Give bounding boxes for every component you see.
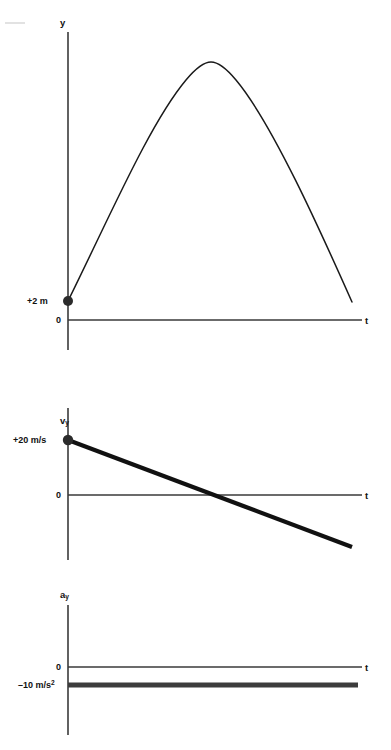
acceleration-origin-label: 0 bbox=[56, 663, 61, 672]
position-plot-canvas bbox=[0, 0, 391, 360]
position-vs-time-panel: y t +2 m 0 bbox=[0, 0, 391, 360]
acceleration-plot-canvas bbox=[0, 570, 391, 750]
acceleration-vertical-axis-label: ay bbox=[60, 590, 69, 601]
acceleration-constant-value-exponent: 2 bbox=[51, 679, 55, 686]
acceleration-vs-time-panel: ay t 0 –10 m/s2 bbox=[0, 570, 391, 750]
acceleration-constant-value-label: –10 m/s2 bbox=[18, 680, 55, 690]
velocity-origin-label: 0 bbox=[56, 491, 61, 500]
position-initial-value-label: +2 m bbox=[27, 297, 48, 306]
velocity-horizontal-axis-label: t bbox=[365, 491, 368, 501]
velocity-initial-point-marker bbox=[63, 435, 73, 445]
velocity-vertical-axis-label: vy bbox=[60, 416, 69, 427]
position-initial-point-marker bbox=[63, 296, 73, 306]
velocity-plot-canvas bbox=[0, 390, 391, 570]
velocity-vs-time-panel: vy t +20 m/s 0 bbox=[0, 390, 391, 570]
kinematics-graph-figure: y t +2 m 0 vy t +20 m/s 0 ay t 0 –10 m/s… bbox=[0, 0, 391, 750]
position-origin-label: 0 bbox=[56, 316, 61, 325]
position-curve bbox=[68, 62, 352, 302]
velocity-line bbox=[68, 440, 352, 547]
position-vertical-axis-label: y bbox=[60, 18, 65, 28]
velocity-axis-subscript: y bbox=[65, 419, 69, 426]
velocity-initial-value-label: +20 m/s bbox=[13, 436, 46, 445]
position-horizontal-axis-label: t bbox=[365, 316, 368, 326]
acceleration-axis-subscript: y bbox=[65, 593, 69, 600]
acceleration-constant-value-text: –10 m/s bbox=[18, 680, 51, 690]
acceleration-horizontal-axis-label: t bbox=[365, 663, 368, 673]
